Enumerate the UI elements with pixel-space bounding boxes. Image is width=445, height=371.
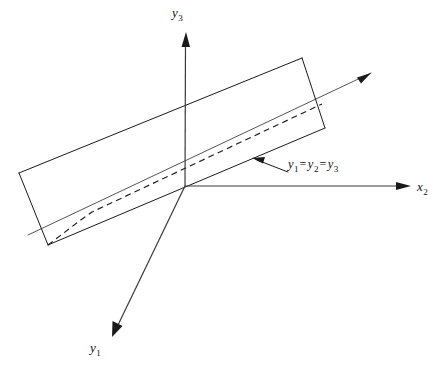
x2-label-subscript: 2 [423,187,428,197]
diag-term-3-subscript: 3 [334,164,339,174]
figure-root: y3 x2 y1 y1=y2=y3 [0,0,445,371]
diag-equals-1: = [298,157,308,171]
y1-label-base: y [90,340,96,355]
equal-coordinates-label: y1=y2=y3 [288,158,338,171]
y3-axis-arrowhead [182,32,191,47]
diag-term-3-base: y [328,157,334,171]
y1-label-subscript: 1 [96,348,101,358]
equal-coordinates-arrowhead [357,73,371,84]
diag-term-2-base: y [308,157,314,171]
y3-label-subscript: 3 [178,13,183,23]
diag-term-1-base: y [288,157,294,171]
y1-axis-label: y1 [90,341,100,354]
annotation-leader-arrowhead [252,157,265,164]
slab-face [19,58,325,245]
x2-axis-arrowhead [396,182,411,190]
y3-axis-label: y3 [172,6,182,19]
diag-term-2-subscript: 2 [314,164,319,174]
x2-label-base: x [417,179,423,194]
diag-equals-2: = [318,157,328,171]
y3-axis-line [185,40,186,186]
y3-label-base: y [172,5,178,20]
diag-term-1-subscript: 1 [294,164,299,174]
diagram-canvas [0,0,445,371]
x2-axis-label: x2 [417,180,427,193]
y1-axis-arrowhead [112,321,123,337]
